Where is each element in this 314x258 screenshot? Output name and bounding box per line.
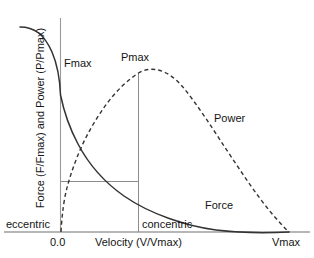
annotation-fmax: Fmax <box>64 57 92 69</box>
x-axis-title: Velocity (V/Vmax) <box>95 236 182 248</box>
power-curve <box>61 69 289 232</box>
x-tick-label-vmax: Vmax <box>272 236 300 248</box>
annotation-eccentric: eccentric <box>6 218 50 230</box>
force-velocity-power-chart: Force (F/Fmax) and Power (P/Pmax) Fmax P… <box>0 0 314 258</box>
y-axis-title: Force (F/Fmax) and Power (P/Pmax) <box>34 18 46 218</box>
annotation-force: Force <box>205 199 233 211</box>
annotation-pmax: Pmax <box>121 51 149 63</box>
annotation-concentric: concentric <box>142 218 192 230</box>
annotation-power: Power <box>214 112 245 124</box>
x-tick-label-zero: 0.0 <box>50 236 65 248</box>
